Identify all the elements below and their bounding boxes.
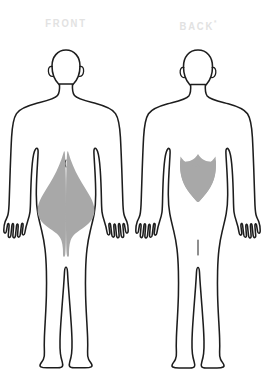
panel-label-back: BACK* [141,17,255,32]
body-outline-front-path [52,50,80,88]
body-figure-back[interactable] [132,44,264,369]
panel-label-front-text: FRONT [45,17,87,29]
body-outline-back-head-path [184,50,213,88]
body-silhouette-front-path [4,84,128,368]
body-panel-front[interactable]: FRONT [0,0,132,385]
body-silhouette-back-path [136,84,260,368]
panel-label-back-superscript: * [214,19,216,26]
body-figure-front[interactable] [0,44,132,369]
panel-label-front: FRONT [9,17,123,29]
panel-label-back-text: BACK [180,20,215,32]
body-panel-back[interactable]: BACK* [132,0,264,385]
body-pain-diagram: FRONT BACK* [0,0,264,385]
